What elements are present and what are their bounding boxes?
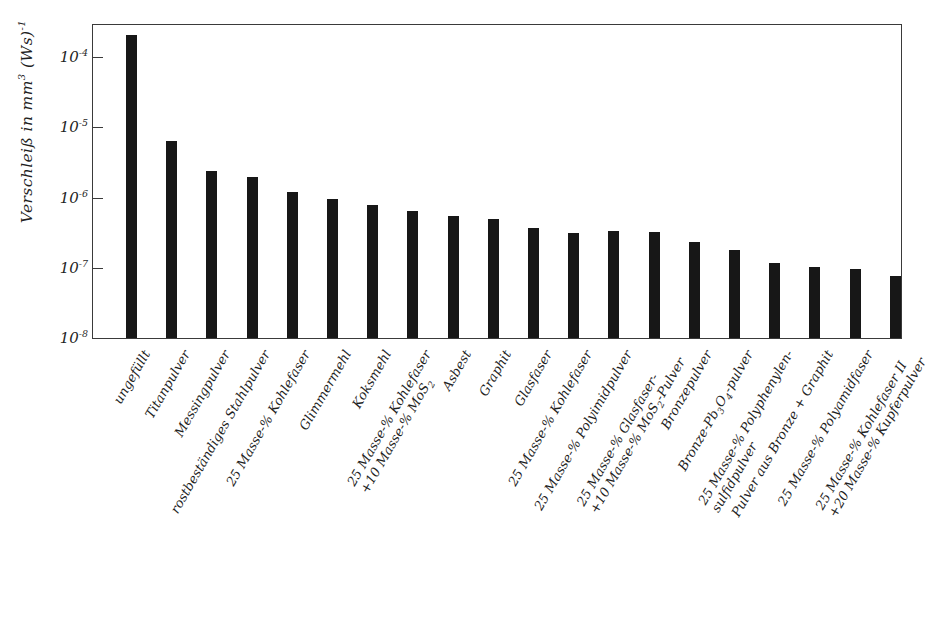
chem-subscript: 3 — [715, 406, 727, 416]
x-tick-label: Graphit — [477, 348, 515, 399]
x-tick-label-line1: ungefüllt — [110, 348, 153, 407]
x-tick-label-line1: Graphit — [476, 348, 514, 399]
bar — [809, 267, 820, 338]
bar — [649, 232, 660, 338]
bar — [488, 219, 499, 338]
y-tick-mark — [92, 198, 103, 199]
x-tick-label: Koksmehl — [350, 348, 395, 411]
bar — [729, 250, 740, 338]
bar — [126, 35, 137, 338]
bar — [890, 276, 901, 338]
y-tick-mark — [92, 127, 103, 128]
x-tick-label: ungefüllt — [111, 348, 153, 407]
x-tick-label: 25 Masse-% Kohlefaser+10 Masse-% MoS2 — [345, 348, 451, 498]
y-axis-exponent-minus1: -1 — [16, 20, 27, 31]
wear-bar-chart-figure: Verschleiß in mm3 (Ws)-1 10-410-510-610-… — [0, 0, 932, 627]
chem-subscript: 2 — [425, 379, 437, 389]
chem-subscript: 4 — [723, 392, 735, 402]
chem-subscript: 2 — [655, 399, 667, 409]
bar — [327, 199, 338, 339]
x-tick-label-line1: Glasfaser — [511, 348, 555, 409]
bar — [608, 231, 619, 338]
bar — [247, 177, 258, 338]
bar — [206, 171, 217, 338]
y-tick-mark — [92, 268, 103, 269]
bar — [689, 242, 700, 338]
x-tick-label: 25 Masse-% Glasfaser-+10 Masse-% MoS2-Pu… — [574, 348, 692, 518]
bar — [407, 211, 418, 338]
y-tick-mark — [92, 57, 103, 58]
bar — [528, 228, 539, 338]
y-tick-label: 10-5 — [36, 117, 88, 136]
y-tick-label: 10-4 — [36, 47, 88, 66]
y-tick-label: 10-6 — [36, 188, 88, 207]
bar — [166, 141, 177, 338]
bar — [367, 205, 378, 338]
x-tick-label-line1: Koksmehl — [349, 348, 394, 411]
y-tick-label: 10-8 — [36, 328, 88, 347]
bar — [568, 233, 579, 338]
bar — [769, 263, 780, 338]
y-axis-exponent-3: 3 — [16, 73, 27, 80]
x-tick-label-line2: +20 Masse-% Kupferpulver — [826, 355, 929, 519]
bar — [850, 269, 861, 338]
x-tick-label: Glasfaser — [511, 348, 555, 409]
bar — [287, 192, 298, 338]
y-axis-title: Verschleiß in mm3 (Ws)-1 — [16, 0, 35, 272]
bar — [448, 216, 459, 338]
y-tick-label: 10-7 — [36, 258, 88, 277]
